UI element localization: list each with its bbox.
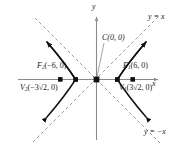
vertex-right-coords-close: , 0) — [142, 83, 153, 92]
center-label: C(0, 0) — [102, 34, 125, 42]
focus-left-point — [58, 77, 63, 82]
focus-right-label: F1(6, 0) — [123, 62, 148, 70]
asymptote-positive-label: y = x — [148, 13, 165, 21]
asymptote-negative-label: y = −x — [144, 128, 166, 136]
focus-right-coords: (6, 0) — [130, 61, 147, 70]
hyperbola-figure: y x C(0, 0) F1(6, 0) F2(−6, 0) V1(3√2, 0… — [0, 0, 190, 148]
vertex-left-coords-close: , 0) — [47, 83, 58, 92]
vertex-left-point — [73, 77, 78, 82]
vertex-left-label: V2(−3√2, 0) — [20, 84, 58, 92]
vertex-right-label: V1(3√2, 0) — [119, 84, 152, 92]
vertex-right-point — [115, 77, 120, 82]
focus-right-point — [130, 77, 135, 82]
center-point — [94, 77, 100, 83]
graph-canvas — [0, 0, 190, 148]
x-axis-label: x — [152, 80, 156, 88]
vertex-left-radical: √2 — [39, 83, 47, 92]
vertex-right-radical: √2 — [133, 83, 141, 92]
focus-left-label: F2(−6, 0) — [37, 62, 66, 70]
y-axis-label: y — [92, 3, 96, 11]
focus-left-coords: (−6, 0) — [44, 61, 66, 70]
vertex-left-coords-open: (−3 — [27, 83, 38, 92]
